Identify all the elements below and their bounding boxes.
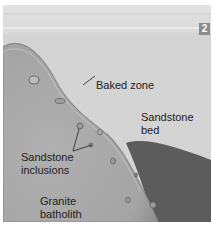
inclusion: [126, 198, 131, 203]
sandstone-bed-label: Sandstone bed: [141, 111, 194, 137]
inclusion: [29, 76, 39, 84]
inclusion: [55, 99, 65, 104]
baked-zone-label: Baked zone: [96, 79, 154, 92]
granite-batholith-label: Granite batholith: [40, 195, 82, 221]
inclusion: [77, 123, 83, 129]
inclusion: [150, 202, 156, 208]
inclusion: [98, 129, 103, 135]
panel-number-badge: 2: [199, 23, 210, 35]
geology-figure: 2 Baked zone Sandstone bed Sandstone inc…: [3, 5, 211, 222]
inclusion: [135, 173, 138, 177]
upper-strata: [3, 5, 211, 35]
sandstone-inclusions-label: Sandstone inclusions: [21, 151, 74, 177]
inclusion: [111, 158, 116, 164]
